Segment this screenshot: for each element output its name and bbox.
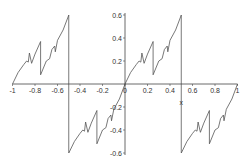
curve-segment — [69, 84, 125, 153]
x-axis-label: x — [180, 99, 184, 106]
x-tick-label: -0.4 — [74, 87, 86, 94]
x-tick-label: 0 — [123, 87, 127, 94]
curve-segment — [125, 15, 181, 84]
x-tick-label: 0.6 — [188, 87, 198, 94]
axes: -1-0.8-0.6-0.4-0.200.20.40.60.810.60.40.… — [9, 12, 239, 157]
x-tick-label: -0.6 — [51, 87, 63, 94]
x-tick-label: 0.8 — [210, 87, 220, 94]
curve-segment — [13, 15, 69, 84]
y-tick-label: -0.4 — [110, 127, 122, 134]
y-tick-label: -0.6 — [110, 150, 122, 157]
y-tick-label: 0.2 — [112, 58, 122, 65]
x-tick-label: 0.4 — [165, 87, 175, 94]
x-tick-label: -0.8 — [29, 87, 41, 94]
y-tick-label: 0.4 — [112, 35, 122, 42]
x-tick-label: 0.2 — [143, 87, 153, 94]
y-tick-label: -0.2 — [110, 104, 122, 111]
x-tick-label: -0.2 — [96, 87, 108, 94]
x-tick-label: -1 — [9, 87, 15, 94]
x-tick-label: 1 — [236, 87, 240, 94]
curve-segment — [181, 84, 237, 153]
y-tick-label: 0.6 — [112, 12, 122, 19]
plot-area: -1-0.8-0.6-0.4-0.200.20.40.60.810.60.40.… — [0, 0, 243, 167]
